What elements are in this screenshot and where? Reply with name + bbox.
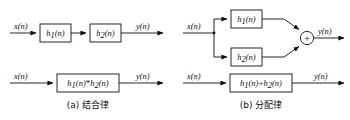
figure-root: h1(n) h2(n) x(n) y(n) h1(n)*h2(n) x(n) y… xyxy=(0,0,350,120)
panel-b-row-2: h1(n)+h2(n) x(n) y(n) xyxy=(183,71,344,92)
input-label-xn-4: x(n) xyxy=(186,71,201,81)
panel-b-row-1: h1(n) h2(n) + x(n) y(n) xyxy=(183,10,344,66)
output-label-yn-2: y(n) xyxy=(135,71,150,81)
output-label-yn: y(n) xyxy=(135,21,150,31)
input-label-xn-2: x(n) xyxy=(13,71,28,81)
panel-b: h1(n) h2(n) + x(n) y(n) h1(n)+h2(n) xyxy=(183,10,344,110)
input-label-xn-3: x(n) xyxy=(186,21,201,31)
wire-branch-lower xyxy=(214,33,227,57)
panel-a-row-2: h1(n)*h2(n) x(n) y(n) xyxy=(10,71,163,92)
input-label-xn: x(n) xyxy=(13,21,28,31)
panel-a: h1(n) h2(n) x(n) y(n) h1(n)*h2(n) x(n) y… xyxy=(10,21,163,110)
summing-junction-plus-icon: + xyxy=(304,33,310,44)
wire-upper-to-summer xyxy=(262,19,299,30)
wire-lower-to-summer xyxy=(262,47,299,58)
output-label-yn-3: y(n) xyxy=(317,26,332,36)
output-label-yn-4: y(n) xyxy=(313,71,328,81)
block-diagram-figure: h1(n) h2(n) x(n) y(n) h1(n)*h2(n) x(n) y… xyxy=(0,0,350,120)
panel-b-caption: (b) 分配律 xyxy=(240,99,283,110)
wire-branch-upper xyxy=(214,19,227,33)
panel-a-caption: (a) 结合律 xyxy=(67,99,109,110)
panel-a-row-1: h1(n) h2(n) x(n) y(n) xyxy=(10,21,163,42)
